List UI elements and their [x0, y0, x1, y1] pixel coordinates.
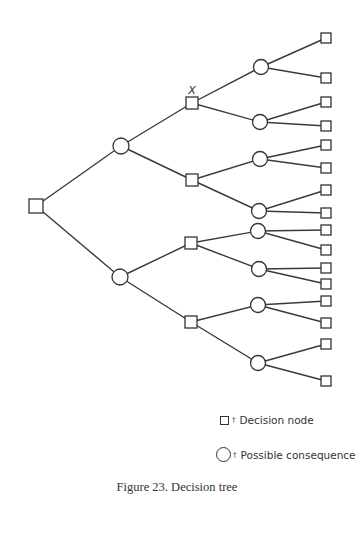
leaf-decision-node-square [321, 33, 331, 43]
decision-node-square [185, 237, 197, 249]
tree-edge [259, 269, 326, 284]
legend-separator: † [232, 416, 236, 424]
tree-edge [261, 38, 326, 67]
leaf-decision-node-square [321, 140, 331, 150]
consequence-node-circle [252, 262, 267, 277]
consequence-node-circle [252, 204, 267, 219]
leaf-decision-node-square [321, 185, 331, 195]
consequence-node-circle [253, 115, 268, 130]
leaf-decision-node-square [321, 121, 331, 131]
legend-decision-node: † Decision node [220, 414, 314, 426]
tree-edge [192, 103, 260, 122]
tree-edge [258, 230, 326, 231]
tree-edge [191, 305, 258, 322]
leaf-decision-node-square [321, 245, 331, 255]
legend-decision-label: Decision node [240, 414, 314, 426]
decision-node-square [29, 199, 43, 213]
leaf-decision-node-square [321, 318, 331, 328]
leaf-decision-node-square [321, 163, 331, 173]
tree-edge [258, 301, 326, 305]
tree-edge [191, 243, 259, 269]
tree-edge [258, 344, 326, 363]
tree-edge [259, 211, 326, 213]
tree-edge [258, 305, 326, 323]
legend-possible-consequence: † Possible consequence [216, 447, 356, 462]
leaf-decision-node-square [321, 376, 331, 386]
decision-node-square-icon [220, 416, 229, 425]
consequence-node-circle [251, 298, 266, 313]
tree-edges [36, 38, 326, 381]
leaf-decision-node-square [321, 73, 331, 83]
consequence-node-circle [251, 224, 266, 239]
tree-edge [121, 146, 192, 180]
leaf-decision-node-square [321, 296, 331, 306]
leaf-decision-node-square [321, 208, 331, 218]
leaf-decision-node-square [321, 279, 331, 289]
tree-edge [192, 67, 261, 103]
consequence-node-circle [113, 138, 129, 154]
tree-edge [192, 180, 259, 211]
tree-edge [260, 102, 326, 122]
leaf-decision-node-square [321, 263, 331, 273]
tree-edge [120, 277, 191, 322]
leaf-decision-node-square [321, 225, 331, 235]
tree-edge [258, 231, 326, 250]
tree-edge [261, 67, 326, 78]
decision-node-square [185, 316, 197, 328]
figure-caption: Figure 23. Decision tree [0, 480, 354, 495]
tree-edge [120, 243, 191, 277]
leaf-decision-node-square [321, 97, 331, 107]
tree-edge [260, 145, 326, 159]
tree-edge [191, 322, 258, 363]
tree-edge [260, 159, 326, 168]
tree-edge [258, 363, 326, 381]
tree-edge [121, 103, 192, 146]
tree-edge [192, 159, 260, 180]
marker-x-label: X [187, 84, 196, 97]
tree-edge [259, 190, 326, 211]
consequence-node-circle [254, 60, 269, 75]
decision-node-square [186, 174, 198, 186]
tree-edge [191, 231, 258, 243]
consequence-node-circle [112, 269, 128, 285]
tree-edge [36, 146, 121, 206]
legend-separator: † [233, 451, 237, 459]
consequence-node-circle [251, 356, 266, 371]
tree-edge [259, 268, 326, 269]
decision-tree-diagram: X [0, 0, 354, 400]
legend-consequence-label: Possible consequence [241, 449, 356, 461]
tree-nodes [29, 33, 331, 386]
consequence-node-circle [253, 152, 268, 167]
tree-edge [260, 122, 326, 126]
consequence-circle-icon [216, 447, 231, 462]
tree-edge [36, 206, 120, 277]
leaf-decision-node-square [321, 339, 331, 349]
decision-node-square [186, 97, 198, 109]
